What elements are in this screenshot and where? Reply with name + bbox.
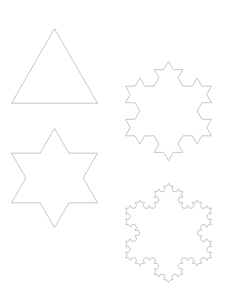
koch-snowflake-figure — [0, 0, 228, 297]
background — [0, 0, 228, 297]
koch-snowflake-canvas — [0, 0, 228, 297]
